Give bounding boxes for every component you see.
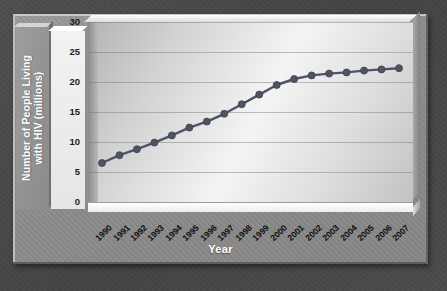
x-axis-tick-label: 2007 [390, 223, 411, 243]
y-axis-tick-label: 25 [52, 46, 80, 57]
data-point-marker[interactable] [361, 67, 368, 74]
x-axis-tick-label: 1998 [233, 223, 254, 243]
x-axis-tick-label: 2005 [355, 223, 376, 243]
data-point-marker[interactable] [99, 160, 106, 167]
data-point-marker[interactable] [396, 65, 403, 72]
data-point-marker[interactable] [168, 132, 175, 139]
y-axis-tick-label: 30 [52, 16, 80, 27]
x-axis-title: Year [13, 243, 428, 255]
panel-bevel-bottom [13, 262, 428, 264]
data-point-marker[interactable] [343, 69, 350, 76]
data-point-marker[interactable] [273, 82, 280, 89]
y-axis-tick-label: 5 [52, 166, 80, 177]
data-point-marker[interactable] [238, 101, 245, 108]
x-axis-tick-label: 2002 [303, 223, 324, 243]
data-point-marker[interactable] [326, 70, 333, 77]
data-point-marker[interactable] [256, 91, 263, 98]
x-axis-tick-label: 1995 [181, 223, 202, 243]
y-axis-tick-label: 20 [52, 76, 80, 87]
data-point-marker[interactable] [186, 124, 193, 131]
data-point-marker[interactable] [221, 110, 228, 117]
x-axis-tick-label: 2003 [320, 223, 341, 243]
x-axis-tick-label: 2001 [285, 223, 306, 243]
x-axis-tick-label: 2004 [338, 223, 359, 243]
y-axis-tick-label: 0 [52, 196, 80, 207]
data-point-marker[interactable] [203, 118, 210, 125]
data-point-marker[interactable] [116, 152, 123, 159]
plot-top-cap [84, 15, 417, 22]
plot-right-wall [413, 11, 420, 199]
data-point-marker[interactable] [291, 76, 298, 83]
x-axis-tick-label: 1992 [128, 223, 149, 243]
y-axis-tick-strip: 051015202530 [51, 31, 85, 209]
x-axis-tick-label: 1993 [146, 223, 167, 243]
x-axis-tick-label: 1991 [111, 223, 132, 243]
data-point-marker[interactable] [133, 146, 140, 153]
data-point-marker[interactable] [151, 139, 158, 146]
panel-bevel-right [426, 14, 428, 264]
x-axis-tick-label: 1996 [198, 223, 219, 243]
x-axis-tick-label: 2000 [268, 223, 289, 243]
x-axis-tick-label: 1990 [93, 223, 114, 243]
data-point-marker[interactable] [308, 72, 315, 79]
y-axis-title-slab: Number of People Living with HIV (millio… [16, 27, 49, 209]
x-axis-tick-label: 1999 [250, 223, 271, 243]
y-axis-tick-label: 10 [52, 136, 80, 147]
y-axis-title: Number of People Living with HIV (millio… [13, 27, 51, 209]
x-axis-tick-strip: 1990199119921993199419951996199719981999… [60, 211, 413, 243]
series-layer [88, 22, 413, 202]
x-axis-tick-label: 1994 [163, 223, 184, 243]
x-axis-tick-label: 1997 [215, 223, 236, 243]
series-line [102, 68, 399, 163]
data-point-marker[interactable] [378, 66, 385, 73]
y-axis-tick-label: 15 [52, 106, 80, 117]
x-axis-tick-label: 2006 [373, 223, 394, 243]
